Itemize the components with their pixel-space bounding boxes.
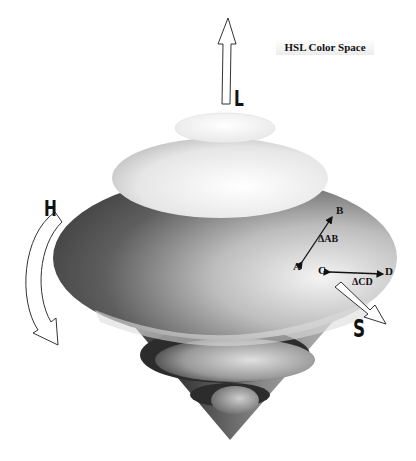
point-a-label: A [293,260,301,272]
point-c-label: C [318,264,326,276]
top-lightness-disk [175,113,275,143]
figure-title: HSL Color Space [276,39,374,55]
hue-axis-label: H [44,196,57,221]
point-b-label: B [336,204,343,216]
delta-cd-label: ΔCD [352,276,373,287]
hue-arrow-icon [26,212,62,345]
mid-lightness-disk [112,138,328,218]
lightness-axis-label: L [234,86,244,111]
hsl-diagram: HSL Color Space L H S B A C D ΔAB ΔCD [0,0,416,461]
hsl-cone-illustration [0,0,416,461]
saturation-axis-label: S [353,315,365,343]
delta-ab-label: ΔAB [318,233,338,244]
point-d-label: D [385,265,393,277]
